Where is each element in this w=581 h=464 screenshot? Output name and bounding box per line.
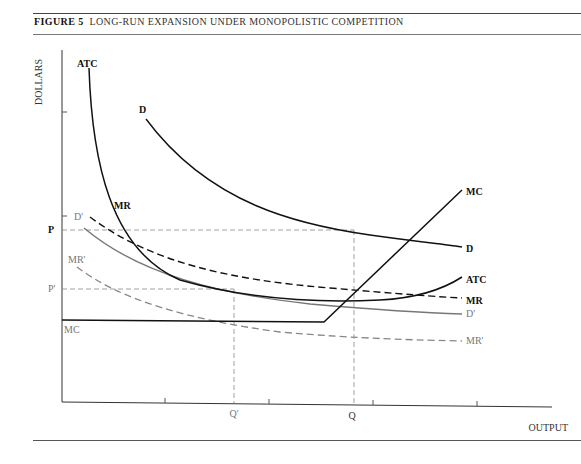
- label-atc-right: ATC: [466, 274, 486, 285]
- label-mr-right: MR: [466, 295, 483, 306]
- label-dprime-right: D': [466, 308, 475, 319]
- label-atc-top: ATC: [77, 58, 97, 69]
- x-axis: [62, 402, 552, 407]
- label-mr-top: MR: [114, 200, 131, 211]
- average-total-cost-curve: [89, 68, 462, 301]
- demand-curve-d: [146, 119, 462, 247]
- marginal-revenue-curve-mr-prime: [77, 267, 462, 341]
- y-axis-label: DOLLARS: [33, 59, 44, 105]
- label-mc-left: MC: [64, 324, 80, 335]
- label-q: Q: [348, 410, 356, 421]
- x-axis-label: OUTPUT: [529, 422, 568, 433]
- label-pprime: P': [48, 283, 56, 294]
- label-mc-right: MC: [466, 186, 483, 197]
- label-dprime-left: D': [74, 211, 83, 222]
- label-d-top: D: [139, 104, 146, 115]
- label-mrprime-left: MR': [68, 254, 86, 265]
- label-qprime: Q': [229, 408, 238, 419]
- label-mrprime-right: MR': [466, 335, 484, 346]
- label-d-right: D: [466, 243, 473, 254]
- label-p: P: [48, 224, 54, 235]
